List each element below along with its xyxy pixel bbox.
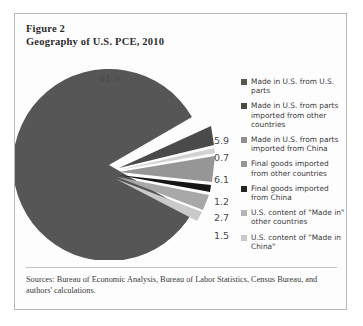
legend-item[interactable]: Made in U.S. from parts imported from Ch…	[241, 135, 345, 153]
legend-swatch-icon	[241, 210, 247, 216]
legend-item[interactable]: Final goods imported from China	[241, 184, 345, 202]
legend-item[interactable]: U.S. content of "Made in China"	[241, 233, 345, 251]
pie-value-label-5-9: 5.9	[214, 135, 229, 146]
legend-swatch-icon	[241, 161, 247, 167]
legend-item-label: Final goods imported from China	[251, 184, 345, 202]
legend-item[interactable]: Made in U.S. from U.S. parts	[241, 77, 345, 95]
figure-title: Geography of U.S. PCE, 2010	[26, 35, 164, 48]
pie-chart-svg	[15, 60, 243, 260]
legend-item-label: Made in U.S. from U.S. parts	[251, 77, 345, 95]
legend-item-label: Made in U.S. from parts imported from Ch…	[251, 135, 345, 153]
figure-card: Figure 2 Geography of U.S. PCE, 2010 81.…	[14, 13, 347, 310]
legend-swatch-icon	[241, 235, 247, 241]
source-divider	[26, 267, 337, 268]
pie-value-label-1-5: 1.5	[214, 230, 229, 241]
legend-item[interactable]: Final goods imported from other countrie…	[241, 159, 345, 177]
figure-title-block: Figure 2 Geography of U.S. PCE, 2010	[26, 22, 164, 48]
legend-swatch-icon	[241, 103, 247, 109]
legend-swatch-icon	[241, 79, 247, 85]
figure-number: Figure 2	[26, 22, 164, 35]
pie-value-label-1-2: 1.2	[214, 196, 229, 207]
legend-swatch-icon	[241, 186, 247, 192]
legend-item-label: Final goods imported from other countrie…	[251, 159, 345, 177]
chart-legend: Made in U.S. from U.S. parts Made in U.S…	[241, 77, 345, 257]
pie-value-label-2-7: 2.7	[214, 212, 229, 223]
pie-value-label-6-1: 6.1	[214, 174, 229, 185]
pie-value-label-0-7: 0.7	[214, 152, 229, 163]
pie-chart-plot-area: 81.9 5.9 0.7 6.1 1.2 2.7 1.5	[15, 60, 243, 260]
pie-value-label-main: 81.9	[99, 73, 120, 84]
legend-item[interactable]: Made in U.S. from parts imported from ot…	[241, 101, 345, 129]
legend-swatch-icon	[241, 137, 247, 143]
legend-item[interactable]: U.S. content of "Made in" other countrie…	[241, 208, 345, 226]
legend-item-label: U.S. content of "Made in" other countrie…	[251, 208, 345, 226]
legend-item-label: Made in U.S. from parts imported from ot…	[251, 101, 345, 129]
source-note: Sources: Bureau of Economic Analysis, Bu…	[26, 274, 338, 296]
legend-item-label: U.S. content of "Made in China"	[251, 233, 345, 251]
